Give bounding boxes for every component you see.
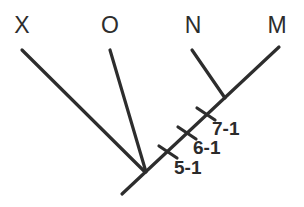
- taxon-label-n: N: [185, 14, 202, 37]
- taxon-label-o: O: [101, 14, 119, 37]
- character-label-7-1: 7-1: [212, 119, 239, 138]
- cladogram-canvas: [0, 0, 304, 207]
- character-label-5-1: 5-1: [174, 158, 201, 177]
- branch-n: [192, 50, 225, 98]
- taxon-label-x: X: [14, 14, 29, 37]
- cladogram-figure: X O N M 5-1 6-1 7-1: [0, 0, 304, 207]
- branch-lines: [22, 47, 279, 194]
- taxon-label-m: M: [267, 14, 286, 37]
- character-label-6-1: 6-1: [193, 138, 220, 157]
